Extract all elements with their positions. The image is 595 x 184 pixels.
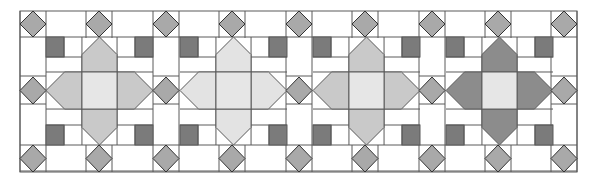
center-square bbox=[216, 72, 251, 109]
corner-square bbox=[535, 37, 553, 57]
corner-square bbox=[402, 37, 420, 57]
corner-square bbox=[446, 125, 464, 145]
center-square bbox=[349, 72, 384, 109]
corner-square bbox=[313, 37, 331, 57]
corner-square bbox=[135, 37, 153, 57]
corner-square bbox=[46, 125, 64, 145]
center-square bbox=[482, 72, 517, 109]
corner-square bbox=[269, 125, 287, 145]
corner-square bbox=[135, 125, 153, 145]
corner-square bbox=[313, 125, 331, 145]
quilt-diagram bbox=[0, 0, 595, 184]
corner-square bbox=[46, 37, 64, 57]
corner-square bbox=[180, 37, 198, 57]
center-square bbox=[82, 72, 117, 109]
corner-square bbox=[535, 125, 553, 145]
corner-square bbox=[402, 125, 420, 145]
corner-square bbox=[269, 37, 287, 57]
corner-square bbox=[180, 125, 198, 145]
corner-square bbox=[446, 37, 464, 57]
